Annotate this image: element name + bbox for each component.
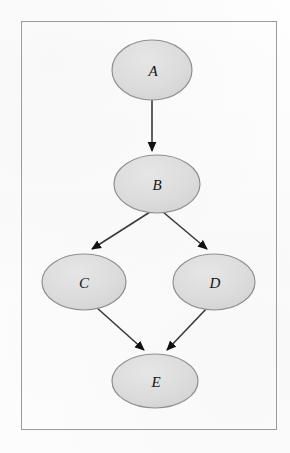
node-b[interactable]: B	[114, 155, 200, 213]
edge-b-to-c-line	[92, 212, 150, 249]
node-c-label: C	[79, 275, 90, 291]
node-d-label: D	[209, 275, 221, 291]
node-a-label: A	[147, 63, 158, 79]
edges-layer	[92, 100, 208, 350]
edge-b-to-d-line	[163, 212, 207, 249]
node-e[interactable]: E	[112, 354, 198, 408]
edge-b-to-d[interactable]	[163, 212, 207, 249]
edge-d-to-e[interactable]	[167, 307, 208, 350]
node-b-label: B	[152, 177, 161, 193]
edge-c-to-e[interactable]	[96, 307, 144, 350]
node-e-label: E	[150, 374, 160, 390]
nodes-layer: A B C D E	[42, 40, 255, 408]
node-c[interactable]: C	[42, 254, 126, 310]
edge-c-to-e-line	[96, 307, 144, 350]
graph-canvas: A B C D E	[0, 0, 290, 453]
node-a[interactable]: A	[112, 40, 192, 100]
edge-b-to-c[interactable]	[92, 212, 150, 249]
diagram-page: A B C D E	[0, 0, 290, 453]
node-d[interactable]: D	[173, 254, 255, 310]
edge-d-to-e-line	[167, 307, 208, 350]
